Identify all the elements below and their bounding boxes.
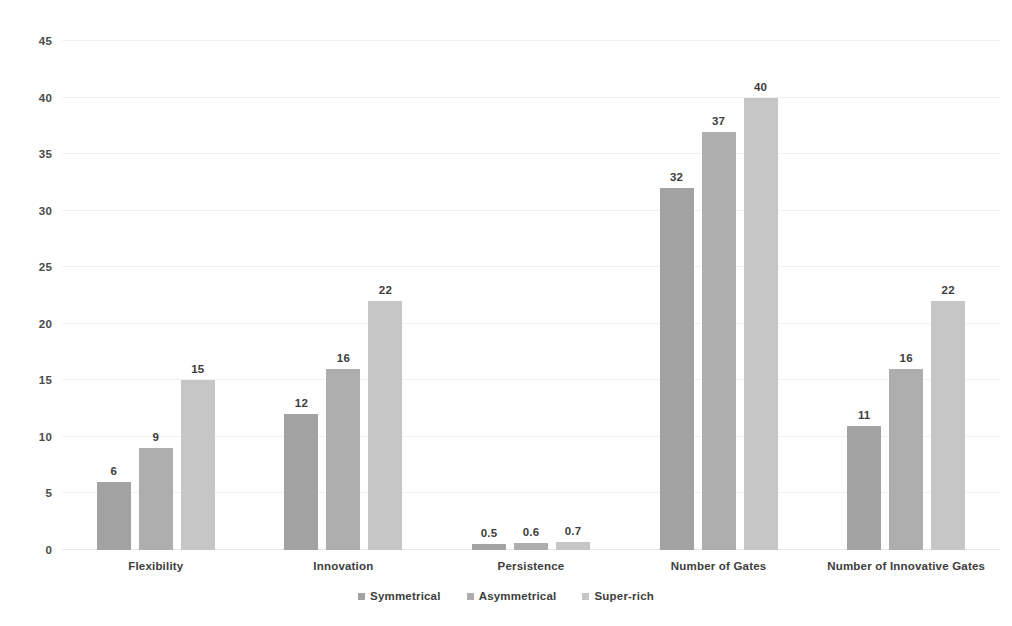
bar-group: 6915 <box>97 41 215 550</box>
bar-value-label: 16 <box>313 352 373 364</box>
y-axis-tick-label: 30 <box>12 205 52 217</box>
bar[interactable] <box>660 188 694 550</box>
bar-group: 121622 <box>284 41 402 550</box>
legend-label: Symmetrical <box>370 590 441 602</box>
y-axis-tick-label: 20 <box>12 318 52 330</box>
bar-value-label: 12 <box>271 397 331 409</box>
bar[interactable] <box>744 98 778 550</box>
bar-value-label: 32 <box>647 171 707 183</box>
bar[interactable] <box>702 132 736 551</box>
legend-swatch-icon <box>582 593 589 600</box>
bar[interactable] <box>472 544 506 550</box>
y-axis-tick-label: 0 <box>12 544 52 556</box>
y-axis: 051015202530354045 <box>0 41 52 550</box>
legend-label: Asymmetrical <box>479 590 557 602</box>
y-axis-tick-label: 5 <box>12 487 52 499</box>
y-axis-tick-label: 15 <box>12 374 52 386</box>
bar-value-label: 40 <box>731 81 791 93</box>
legend-swatch-icon <box>358 593 365 600</box>
legend-item[interactable]: Symmetrical <box>358 590 441 602</box>
bar[interactable] <box>139 448 173 550</box>
bar-group: 323740 <box>660 41 778 550</box>
legend-swatch-icon <box>467 593 474 600</box>
bar[interactable] <box>847 426 881 550</box>
y-axis-tick-label: 45 <box>12 35 52 47</box>
bar[interactable] <box>97 482 131 550</box>
bar[interactable] <box>931 301 965 550</box>
y-axis-tick-label: 35 <box>12 148 52 160</box>
legend-item[interactable]: Super-rich <box>582 590 654 602</box>
bar[interactable] <box>889 369 923 550</box>
bar-value-label: 37 <box>689 115 749 127</box>
bar-value-label: 15 <box>168 363 228 375</box>
bar-value-label: 16 <box>876 352 936 364</box>
y-axis-tick-label: 25 <box>12 261 52 273</box>
bar-value-label: 11 <box>834 409 894 421</box>
bar[interactable] <box>556 542 590 550</box>
y-axis-tick-label: 40 <box>12 92 52 104</box>
bar[interactable] <box>181 380 215 550</box>
bar-group: 0.50.60.7 <box>472 41 590 550</box>
chart-legend: SymmetricalAsymmetricalSuper-rich <box>0 590 1012 602</box>
plot-area: 69151216220.50.60.7323740111622 <box>62 41 1000 550</box>
bar-value-label: 0.7 <box>543 525 603 537</box>
bar-group: 111622 <box>847 41 965 550</box>
bar[interactable] <box>284 414 318 550</box>
bar-value-label: 6 <box>84 465 144 477</box>
x-axis-category-label: Number of Innovative Gates <box>776 560 1012 572</box>
bar[interactable] <box>514 543 548 550</box>
bar-value-label: 22 <box>918 284 978 296</box>
y-axis-tick-label: 10 <box>12 431 52 443</box>
legend-item[interactable]: Asymmetrical <box>467 590 557 602</box>
bar[interactable] <box>326 369 360 550</box>
bar-value-label: 9 <box>126 431 186 443</box>
bar-value-label: 22 <box>355 284 415 296</box>
legend-label: Super-rich <box>594 590 654 602</box>
grouped-bar-chart: 051015202530354045 69151216220.50.60.732… <box>0 0 1012 626</box>
bar[interactable] <box>368 301 402 550</box>
